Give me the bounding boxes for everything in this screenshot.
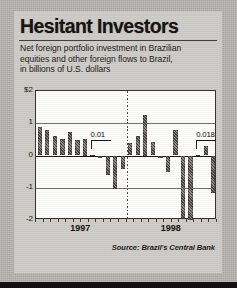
bar <box>143 115 147 155</box>
x-axis-year-labels: 19971998 <box>35 223 216 237</box>
x-tick <box>95 219 96 222</box>
x-tick <box>110 219 111 222</box>
x-tick <box>35 219 36 222</box>
x-tick <box>80 219 81 222</box>
chart-figure: Hesitant Investors Net foreign portfolio… <box>14 11 222 273</box>
x-tick <box>88 219 89 222</box>
subtitle-line-2: equities and other foreign flows to Braz… <box>20 54 218 65</box>
bar <box>211 156 215 193</box>
x-tick <box>141 219 142 222</box>
subtitle-line-3: in billions of U.S. dollars <box>20 64 218 75</box>
bar <box>53 136 57 155</box>
bottom-rule <box>0 282 237 288</box>
x-tick <box>118 219 119 222</box>
y-tick-label: $2 <box>24 86 33 94</box>
bar <box>90 155 94 156</box>
bar <box>158 156 162 159</box>
y-tick-label: 0 <box>29 151 33 159</box>
bar <box>38 127 42 155</box>
x-tick <box>103 219 104 222</box>
source-credit: Source: Brazil's Central Bank <box>112 243 215 252</box>
bar <box>151 142 155 156</box>
plot-canvas: 0.010.018 <box>35 90 216 219</box>
bar <box>106 156 110 175</box>
bar <box>113 156 117 190</box>
bar <box>60 139 64 156</box>
bar <box>173 130 177 156</box>
bar <box>128 143 132 155</box>
bar <box>181 156 185 219</box>
bar <box>121 156 125 170</box>
x-tick <box>126 219 127 222</box>
x-tick <box>178 219 179 222</box>
bar <box>136 136 140 156</box>
bar <box>196 155 200 156</box>
bar <box>75 140 79 155</box>
data-label-0.01: 0.01 <box>91 130 105 139</box>
x-tick <box>148 219 149 222</box>
annotation-tick <box>196 140 197 149</box>
newspaper-page: Hesitant Investors Net foreign portfolio… <box>0 0 237 288</box>
x-tick <box>58 219 59 222</box>
x-tick <box>133 219 134 222</box>
x-tick <box>193 219 194 222</box>
x-tick <box>73 219 74 222</box>
bar <box>98 156 102 159</box>
chart-subtitle: Net foreign portfolio investment in Braz… <box>20 43 218 75</box>
x-tick <box>208 219 209 222</box>
x-tick <box>43 219 44 222</box>
year-label-1998: 1998 <box>161 223 181 233</box>
x-tick <box>171 219 172 222</box>
annotation-underline <box>196 140 216 141</box>
annotation-underline <box>91 140 111 141</box>
bar <box>204 146 208 156</box>
y-tick-label: 1 <box>29 118 33 126</box>
plot-area: $210-1-2 0.010.018 19971998 <box>20 83 216 233</box>
annotation-tick <box>91 140 92 149</box>
y-tick-label: -1 <box>26 183 33 191</box>
year-label-1997: 1997 <box>70 223 90 233</box>
x-tick <box>163 219 164 222</box>
y-axis-labels: $210-1-2 <box>20 83 34 233</box>
data-label-0.018: 0.018 <box>196 130 215 139</box>
headline-divider <box>19 40 217 41</box>
bar <box>45 130 49 155</box>
bar <box>68 132 72 156</box>
y-tick-label: -2 <box>26 215 33 223</box>
x-tick <box>216 219 217 222</box>
bar <box>83 139 87 155</box>
bar <box>188 156 192 221</box>
x-tick <box>65 219 66 222</box>
bar <box>166 156 170 173</box>
x-tick <box>201 219 202 222</box>
page-title: Hesitant Investors <box>20 15 216 37</box>
x-tick <box>156 219 157 222</box>
gridline-1 <box>36 123 215 124</box>
x-tick <box>186 219 187 222</box>
subtitle-line-1: Net foreign portfolio investment in Braz… <box>20 43 218 54</box>
x-tick <box>50 219 51 222</box>
